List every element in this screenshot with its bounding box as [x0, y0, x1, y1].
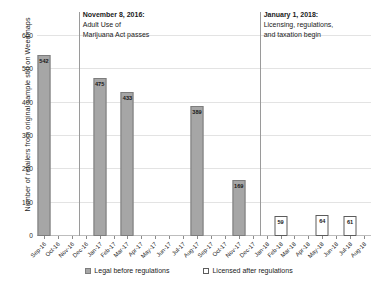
- y-tick-label: 100: [22, 198, 33, 205]
- x-tick: [183, 236, 184, 239]
- x-tick: [211, 236, 212, 239]
- y-tick-label: 300: [22, 132, 33, 139]
- annotation-line: Licensing, regulations,: [264, 20, 334, 30]
- x-axis: Sep-16Oct-16Nov-16Dec-16Jan-17Feb-17Mar-…: [37, 236, 371, 270]
- bar-value-label: 169: [234, 183, 243, 189]
- x-tick: [141, 236, 142, 239]
- legend-item-1[interactable]: Licensed after regulations: [203, 267, 292, 274]
- x-tick-label-sep-16: Sep-16: [30, 241, 48, 259]
- x-tick: [239, 236, 240, 239]
- y-axis-title: Number of retailers from original sample…: [23, 10, 32, 220]
- bar-value-label: 64: [319, 218, 325, 224]
- bar-value-label: 59: [277, 219, 283, 225]
- x-tick: [364, 236, 365, 239]
- x-tick: [267, 236, 268, 239]
- legend-item-0[interactable]: Legal before regulations: [85, 267, 169, 274]
- bar-value-label: 61: [347, 219, 353, 225]
- bar-jan-17[interactable]: 475: [93, 78, 106, 236]
- legend-swatch-icon: [85, 268, 91, 274]
- x-tick: [72, 236, 73, 239]
- bar-mar-17[interactable]: 433: [121, 92, 134, 236]
- annotation-line: Marijuana Act passes: [83, 30, 150, 40]
- x-tick: [44, 236, 45, 239]
- x-tick: [294, 236, 295, 239]
- x-tick: [169, 236, 170, 239]
- bars-layer: 542475433389169596461: [37, 36, 371, 236]
- x-tick: [281, 236, 282, 239]
- annotation-line: and taxation begin: [264, 30, 334, 40]
- chart-legend: Legal before regulationsLicensed after r…: [0, 267, 378, 274]
- y-tick-label: 0: [29, 232, 33, 239]
- bar-may-18[interactable]: 64: [316, 215, 329, 236]
- y-tick-label: 400: [22, 98, 33, 105]
- x-tick: [155, 236, 156, 239]
- annotation-amua-passage: November 8, 2016:Adult Use ofMarijuana A…: [83, 10, 150, 40]
- x-tick: [308, 236, 309, 239]
- y-tick-label: 500: [22, 65, 33, 72]
- x-tick: [86, 236, 87, 239]
- x-tick: [114, 236, 115, 239]
- y-tick-label: 200: [22, 165, 33, 172]
- bar-value-label: 433: [123, 95, 132, 101]
- annotation-title: January 1, 2018:: [264, 10, 334, 20]
- bar-value-label: 542: [39, 58, 48, 64]
- x-tick-label-jun-17: Jun-17: [155, 241, 172, 258]
- bar-nov-17[interactable]: 169: [232, 180, 245, 236]
- y-tick-label: 600: [22, 32, 33, 39]
- bar-aug-17[interactable]: 389: [191, 106, 204, 236]
- bar-jul-18[interactable]: 61: [344, 216, 357, 236]
- x-tick: [127, 236, 128, 239]
- bar-value-label: 475: [95, 81, 104, 87]
- legend-label: Legal before regulations: [94, 267, 169, 274]
- x-tick: [100, 236, 101, 239]
- plot-area: 0100200300400500600 54247543338916959646…: [37, 36, 371, 236]
- bar-sep-16[interactable]: 542: [37, 55, 50, 236]
- annotation-title: November 8, 2016:: [83, 10, 150, 20]
- legend-label: Licensed after regulations: [212, 267, 292, 274]
- x-tick: [225, 236, 226, 239]
- x-tick: [58, 236, 59, 239]
- x-tick: [253, 236, 254, 239]
- x-tick: [336, 236, 337, 239]
- bar-feb-18[interactable]: 59: [274, 216, 287, 236]
- bar-chart: Number of retailers from original sample…: [0, 0, 378, 291]
- annotation-line: Adult Use of: [83, 20, 150, 30]
- x-tick-label-jun-18: Jun-18: [322, 241, 339, 258]
- x-tick: [197, 236, 198, 239]
- x-tick: [350, 236, 351, 239]
- legend-swatch-icon: [203, 268, 209, 274]
- annotation-licensing-begin: January 1, 2018:Licensing, regulations,a…: [264, 10, 334, 40]
- x-tick: [322, 236, 323, 239]
- bar-value-label: 389: [192, 109, 201, 115]
